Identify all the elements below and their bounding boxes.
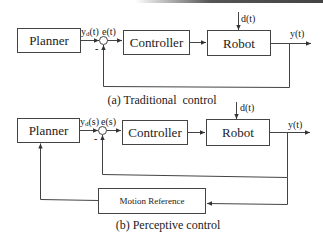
controller-block-a: Controller [124, 31, 190, 55]
caption-b: (b) Perceptive control [116, 218, 221, 232]
planner-label-b: Planner [29, 123, 69, 138]
diagram-perceptive-control: Planner yd(s) e(s) - Controller Robot d(… [18, 102, 311, 232]
controller-block-b: Controller [123, 121, 188, 145]
output-label-b: y(t) [288, 119, 302, 131]
controller-label-b: Controller [128, 125, 182, 140]
perception-path-b [207, 178, 288, 205]
disturbance-label-a: d(t) [241, 13, 255, 25]
motion-reference-label: Motion Reference [119, 196, 184, 206]
robot-block-b: Robot [207, 120, 270, 146]
planner-block-a: Planner [18, 29, 81, 53]
minus-sign-a: - [95, 43, 98, 54]
summing-junction-a [100, 37, 108, 45]
motion-reference-to-planner-path [41, 144, 99, 201]
minus-sign-b: - [94, 133, 97, 144]
disturbance-label-b: d(t) [240, 102, 254, 114]
summing-junction-b [99, 127, 107, 135]
planner-label-a: Planner [29, 33, 69, 48]
robot-label-b: Robot [222, 125, 254, 140]
controller-label-a: Controller [130, 35, 184, 50]
robot-label-a: Robot [223, 36, 255, 51]
reference-label-a: yd(t) [81, 26, 99, 38]
motion-reference-block: Motion Reference [99, 189, 206, 214]
planner-block-b: Planner [18, 119, 80, 143]
reference-label-b: yd(s) [80, 116, 99, 128]
output-label-a: y(t) [290, 28, 304, 40]
caption-a: (a) Traditional control [108, 93, 218, 107]
robot-block-a: Robot [208, 31, 271, 56]
diagram-traditional-control: Planner yd(t) e(t) - Controller Robot d(… [18, 12, 312, 107]
control-diagrams: Planner yd(t) e(t) - Controller Robot d(… [0, 0, 323, 245]
